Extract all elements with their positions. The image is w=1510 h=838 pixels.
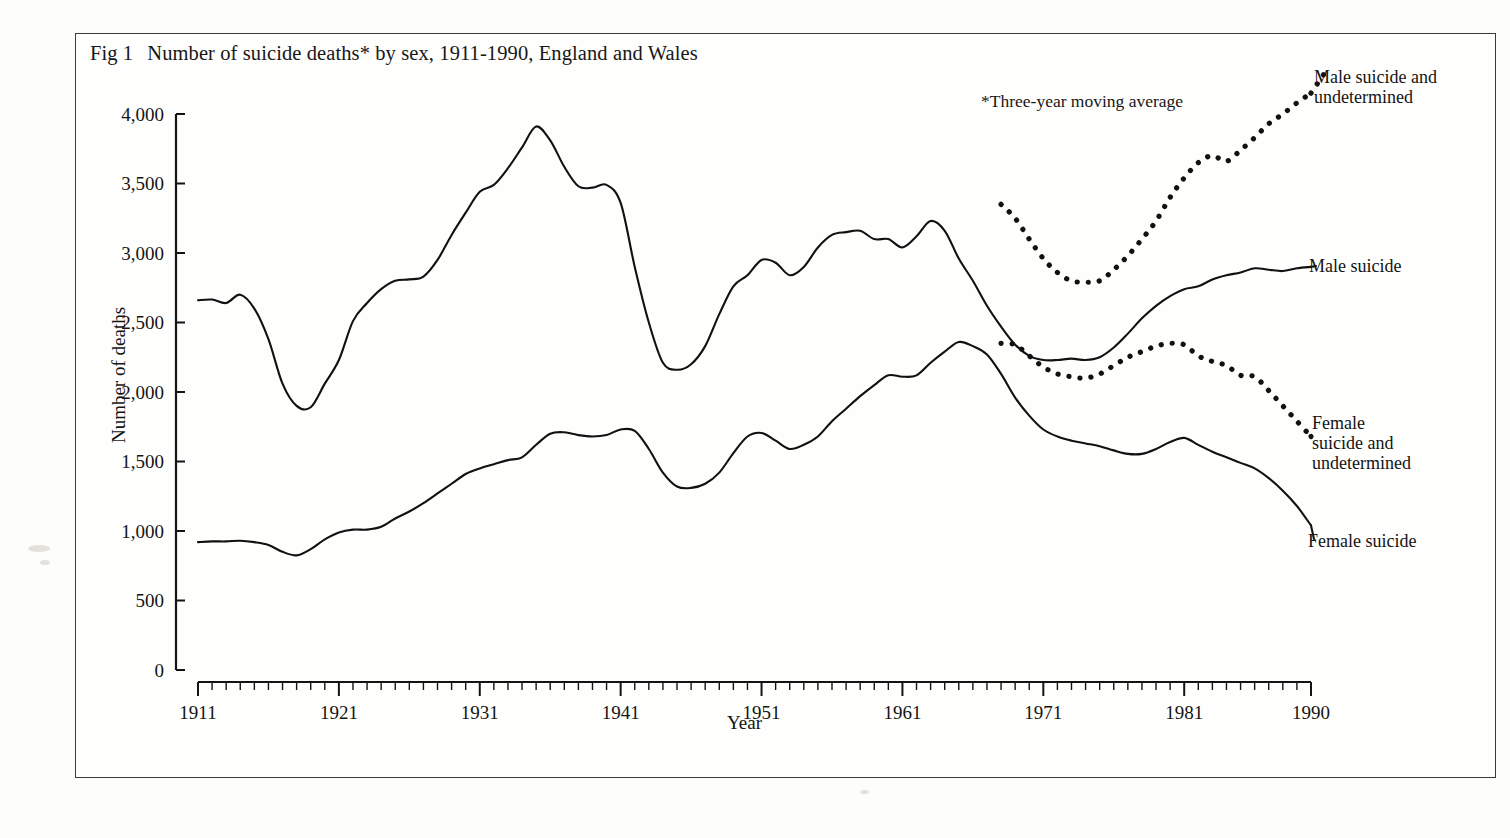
x-tick-label: 1990: [1292, 702, 1330, 723]
x-tick-label: 1941: [602, 702, 640, 723]
scanned-page: Fig 1Number of suicide deaths* by sex, 1…: [0, 0, 1510, 838]
y-tick-label: 500: [136, 590, 165, 611]
chart-plot-area: 05001,0001,5002,0002,5003,0003,5004,000 …: [76, 34, 1497, 779]
x-axis: 191119211931194119511961197119811990: [179, 682, 1330, 723]
x-tick-label: 1921: [320, 702, 358, 723]
series-line: [1001, 343, 1311, 436]
series-leader-line: [1311, 74, 1324, 93]
y-tick-label: 0: [155, 660, 165, 681]
y-tick-label: 1,500: [121, 451, 164, 472]
y-tick-label: 3,000: [121, 243, 164, 264]
series-line: [198, 126, 1311, 409]
y-tick-label: 2,500: [121, 312, 164, 333]
x-tick-label: 1951: [743, 702, 781, 723]
y-tick-label: 2,000: [121, 382, 164, 403]
scan-speck: [40, 560, 50, 565]
x-tick-label: 1961: [883, 702, 921, 723]
series-leader-line: [1311, 266, 1316, 267]
data-series-group: [198, 74, 1324, 555]
scan-speck: [860, 790, 869, 794]
x-tick-label: 1931: [461, 702, 499, 723]
y-axis: 05001,0001,5002,0002,5003,0003,5004,000: [121, 104, 185, 681]
y-tick-label: 1,000: [121, 521, 164, 542]
series-leader-line: [1311, 525, 1314, 539]
y-tick-label: 4,000: [121, 104, 164, 125]
series-leader-line: [1311, 429, 1319, 436]
scan-speck: [28, 545, 50, 552]
x-tick-label: 1981: [1165, 702, 1203, 723]
x-tick-label: 1911: [179, 702, 216, 723]
series-line: [198, 342, 1311, 556]
figure-frame: Fig 1Number of suicide deaths* by sex, 1…: [75, 33, 1496, 778]
y-tick-label: 3,500: [121, 173, 164, 194]
series-line: [1001, 93, 1311, 282]
x-tick-label: 1971: [1024, 702, 1062, 723]
